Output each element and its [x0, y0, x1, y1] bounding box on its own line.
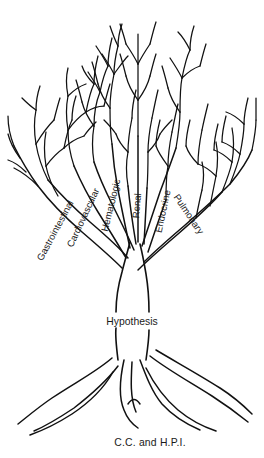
branch-label-gastrointestinal: Gastrointestinal: [34, 198, 75, 262]
branch-label-cardiovascular: Cardiovascular: [64, 185, 101, 248]
trunk-label: Hypothesis: [106, 316, 157, 327]
secondary-branches: [8, 22, 256, 218]
tree-diagram-figure: Gastrointestinal Cardiovascular Hematolo…: [0, 0, 264, 458]
roots-label: C.C. and H.P.I.: [114, 437, 186, 448]
trunk: [116, 242, 149, 360]
root-system: [18, 350, 252, 435]
branch-label-renal: Renal: [130, 193, 143, 219]
tree-drawing: Gastrointestinal Cardiovascular Hematolo…: [0, 0, 264, 458]
branch-label-hematologic: Hematologic: [99, 178, 123, 233]
branch-label-endocrine: Endocrine: [153, 189, 173, 234]
